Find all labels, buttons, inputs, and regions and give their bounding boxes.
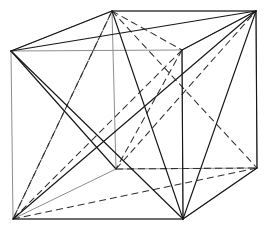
visible-polyhedron-edges	[11, 11, 257, 219]
figure-canvas	[0, 0, 270, 234]
cube-edge-front_top_left-to-front_top_right	[11, 50, 182, 51]
hidden-edge-back_bottom_left-to-back_top_right	[116, 11, 256, 169]
visible-edge-front_top_left-to-back_top_left	[11, 11, 112, 51]
visible-edge-back_top_right-to-back_bottom_right	[256, 11, 257, 168]
cube-edge-front_bottom_left-to-back_bottom_left	[13, 169, 116, 219]
visible-edge-back_top_left-to-front_bottom_right	[112, 11, 183, 219]
hidden-edge-back_top_left-to-front_top_right	[112, 11, 182, 50]
visible-edge-front_top_left-to-front_bottom_right	[11, 51, 183, 219]
visible-edge-front_bottom_right-to-front_top_right	[182, 50, 183, 219]
visible-edge-front_top_left-to-back_bottom_left	[11, 51, 116, 169]
polyhedron-diagram	[0, 0, 270, 234]
cube-edge-front_bottom_left-to-front_top_left	[11, 51, 13, 219]
hidden-edge-front_top_right-to-back_bottom_left	[116, 50, 182, 169]
